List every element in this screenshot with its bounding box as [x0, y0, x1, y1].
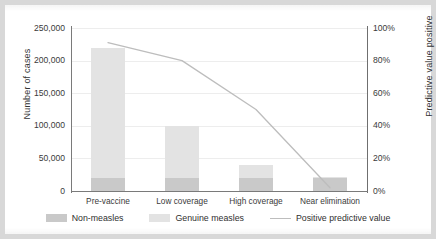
- left-axis-tick-100000: 100,000: [9, 120, 65, 130]
- ppv-line-series: [71, 28, 367, 191]
- right-axis-tick-80: 80%: [373, 55, 407, 65]
- legend-item-genuine-measles: Genuine measles: [149, 213, 243, 223]
- left-axis-tick-200000: 200,000: [9, 55, 65, 65]
- right-axis-tick-40: 40%: [373, 120, 407, 130]
- right-axis-title: Predictive value positive: [424, 0, 434, 136]
- plot-area: [71, 28, 367, 191]
- legend-label-ppv: Positive predictive value: [296, 213, 390, 223]
- category-label: Near elimination: [280, 196, 380, 206]
- chart-legend: Non-measles Genuine measles Positive pre…: [5, 213, 431, 223]
- right-axis-tick-60: 60%: [373, 88, 407, 98]
- legend-swatch-non-measles: [46, 214, 67, 222]
- legend-swatch-genuine-measles: [149, 214, 170, 222]
- legend-label-genuine-measles: Genuine measles: [175, 213, 243, 223]
- chart-figure: 250,000 200,000 150,000 100,000 50,000 0…: [5, 5, 431, 234]
- legend-line-ppv: [270, 218, 291, 219]
- left-axis-tick-0: 0: [9, 186, 65, 196]
- right-axis-line: [367, 26, 368, 193]
- left-axis-tick-250000: 250,000: [9, 23, 65, 33]
- left-axis-tick-50000: 50,000: [9, 153, 65, 163]
- ppv-polyline: [108, 43, 330, 188]
- left-axis-title: Number of cases: [22, 24, 32, 144]
- legend-label-non-measles: Non-measles: [72, 213, 124, 223]
- bottom-axis-line: [71, 191, 368, 192]
- right-axis-tick-20: 20%: [373, 153, 407, 163]
- right-axis-tick-0: 0%: [373, 186, 407, 196]
- right-axis-tick-100: 100%: [373, 23, 407, 33]
- legend-item-non-measles: Non-measles: [46, 213, 124, 223]
- left-axis-tick-150000: 150,000: [9, 88, 65, 98]
- legend-item-ppv: Positive predictive value: [270, 213, 390, 223]
